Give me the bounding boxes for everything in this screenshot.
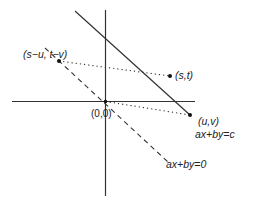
label-point-diff: (s−u, t−v) (23, 48, 67, 60)
line-ax-by-c (75, 11, 190, 115)
point-origin (104, 100, 108, 104)
diagram-canvas: (s−u, t−v) (s,t) (u,v) (0,0) ax+by=c ax+… (0, 0, 254, 204)
point-uv (188, 113, 192, 117)
point-st (168, 74, 172, 78)
label-point-uv: (u,v) (198, 115, 219, 127)
label-line-0: ax+by=0 (166, 158, 206, 170)
dotted-segment-diff-to-st (59, 61, 170, 76)
label-point-st: (s,t) (175, 69, 193, 81)
label-origin: (0,0) (91, 108, 112, 119)
label-line-c: ax+by=c (195, 128, 235, 140)
line-ax-by-0 (45, 48, 168, 162)
